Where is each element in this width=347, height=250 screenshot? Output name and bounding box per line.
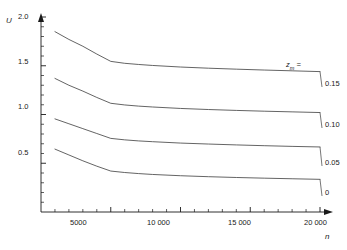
series-label-0: 0 [325,188,329,197]
x-axis-title: n [325,232,329,241]
y-axis-arrowhead [38,13,44,22]
y-axis-title: U [6,16,12,25]
chart-plot-area [0,0,347,250]
y-tick-label-1-0: 1.0 [18,102,28,111]
axes-group [38,13,333,215]
chart-figure: U n 2.0 1.5 1.0 0.5 5000 10 000 15 000 2… [0,0,347,250]
x-tick-label-20000: 20 000 [304,218,327,227]
series-label-0-15: 0.15 [325,79,340,88]
legend-title-equals: = [294,60,300,69]
x-axis-ticks [55,207,320,212]
x-axis-arrowhead [324,209,333,215]
legend-title: zm = [286,60,301,71]
y-tick-label-0-5: 0.5 [18,148,28,157]
y-tick-label-1-5: 1.5 [18,57,28,66]
y-tick-label-2-0: 2.0 [18,12,28,21]
x-tick-label-5000: 5000 [70,218,87,227]
series-label-0-05: 0.05 [325,158,340,167]
x-tick-label-10000: 10 000 [147,218,170,227]
y-axis-ticks [41,17,46,202]
data-curves-group [55,32,320,180]
label-leader-lines [320,72,322,196]
series-label-0-10: 0.10 [325,120,340,129]
x-tick-label-15000: 15 000 [228,218,251,227]
